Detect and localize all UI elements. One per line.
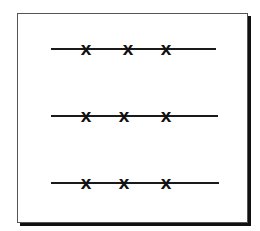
x-mark: x	[119, 173, 130, 192]
x-mark: x	[161, 173, 172, 192]
x-mark: x	[81, 106, 92, 125]
horizontal-line	[51, 182, 219, 184]
x-mark: x	[161, 106, 172, 125]
x-mark: x	[161, 39, 172, 58]
x-mark: x	[81, 39, 92, 58]
diagram-frame: xxxxxxxxx	[17, 13, 248, 223]
x-mark: x	[81, 173, 92, 192]
x-mark: x	[123, 39, 134, 58]
horizontal-line	[51, 115, 218, 117]
x-mark: x	[119, 106, 130, 125]
